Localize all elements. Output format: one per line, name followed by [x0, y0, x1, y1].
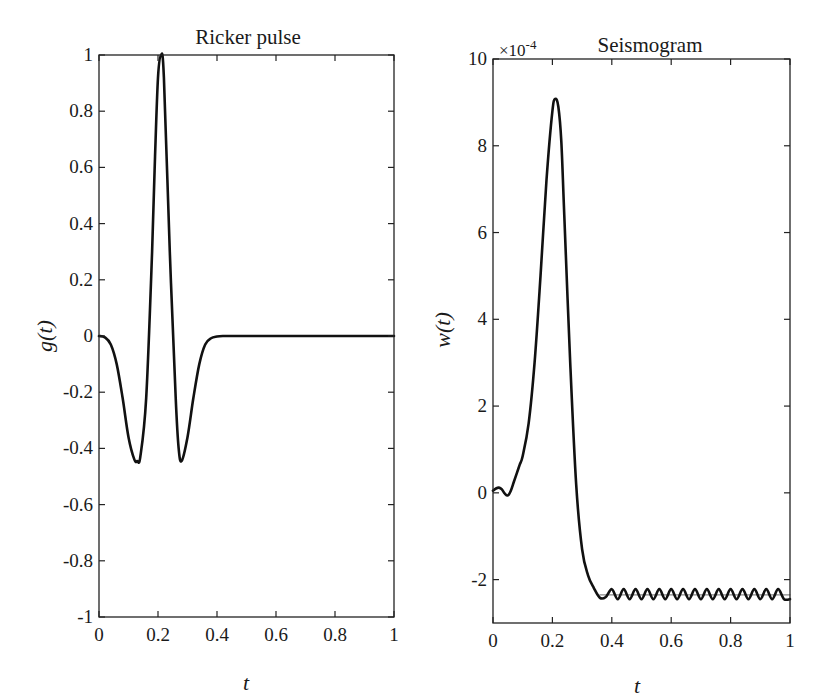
x-tick-label: 1	[785, 630, 795, 651]
x-tick-labels: 00.20.40.60.81	[488, 630, 795, 651]
y-tick-labels: -20246810	[468, 48, 488, 590]
y-tick-label: 0.4	[69, 213, 93, 234]
seismogram-chart: Seismogram ×10-4 00.20.40.60.81 -2024681…	[430, 33, 795, 698]
x-tick-label: 0.8	[719, 630, 743, 651]
y-tick-label: -1	[77, 606, 93, 627]
y-axis-label: g(t)	[32, 320, 57, 352]
y-tick-label: 10	[468, 48, 487, 69]
chart-title: Seismogram	[598, 33, 703, 57]
y-scale-exponent: ×10-4	[499, 37, 537, 60]
y-tick-label: 6	[478, 222, 488, 243]
plot-lines	[493, 99, 790, 600]
y-tick-label: 0	[478, 482, 488, 503]
y-tick-label: -0.2	[63, 381, 93, 402]
x-tick-labels: 00.20.40.60.81	[94, 624, 399, 645]
y-tick-label: 8	[478, 135, 488, 156]
ricker-pulse-chart: Ricker pulse 00.20.40.60.81 -1-0.8-0.6-0…	[32, 25, 399, 695]
x-tick-label: 0.2	[146, 624, 170, 645]
x-tick-label: 0.6	[264, 624, 288, 645]
data-line	[99, 53, 394, 462]
x-tick-label: 0.4	[205, 624, 229, 645]
chart-title: Ricker pulse	[195, 25, 301, 49]
x-tick-label: 1	[389, 624, 399, 645]
y-tick-label: 0	[84, 325, 94, 346]
x-tick-label: 0.8	[323, 624, 347, 645]
y-tick-label: 4	[478, 308, 488, 329]
y-tick-label: -0.6	[63, 494, 93, 515]
y-tick-label: 0.2	[69, 269, 93, 290]
y-tick-label: -2	[471, 569, 487, 590]
x-tick-label: 0	[488, 630, 498, 651]
plot-lines	[99, 53, 394, 462]
y-tick-label: 2	[478, 395, 488, 416]
x-tick-label: 0.6	[659, 630, 683, 651]
x-tick-label: 0.2	[541, 630, 565, 651]
y-tick-label: -0.8	[63, 550, 93, 571]
y-tick-label: -0.4	[63, 437, 94, 458]
data-line	[493, 99, 790, 600]
x-tick-label: 0.4	[600, 630, 624, 651]
x-axis-label: t	[634, 673, 641, 698]
plot-frame	[493, 59, 790, 623]
x-tick-label: 0	[94, 624, 104, 645]
x-axis-label: t	[243, 670, 250, 695]
y-tick-label: 0.6	[69, 156, 93, 177]
axis-ticks	[493, 59, 790, 623]
y-tick-label: 0.8	[69, 100, 93, 121]
y-tick-label: 1	[84, 44, 94, 65]
figure: Ricker pulse 00.20.40.60.81 -1-0.8-0.6-0…	[0, 0, 821, 700]
y-tick-labels: -1-0.8-0.6-0.4-0.200.20.40.60.81	[63, 44, 94, 627]
y-axis-label: w(t)	[430, 312, 455, 347]
